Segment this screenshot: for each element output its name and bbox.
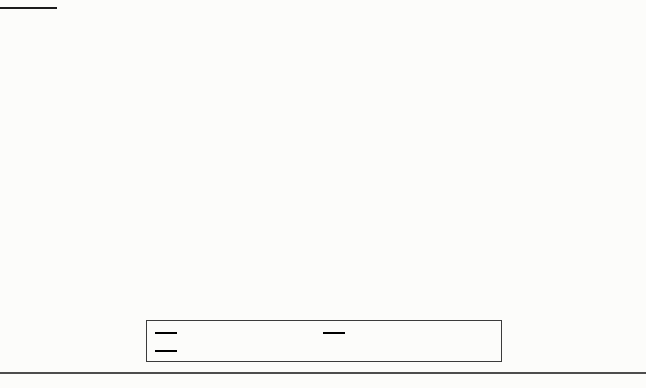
scanned-page [0,0,646,388]
legend-item-30yr [155,343,184,358]
legend-swatch-5yr [155,332,177,334]
top-left-rule [0,7,57,9]
legend-item-10yr [323,325,352,340]
legend-swatch-30yr [155,350,177,352]
spread-chart [0,0,646,372]
legend-swatch-10yr [323,332,345,334]
bottom-rule [0,372,646,374]
chart-legend [146,320,502,362]
legend-item-5yr [155,325,184,340]
